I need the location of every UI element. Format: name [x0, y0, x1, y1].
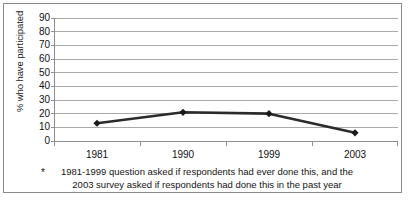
- data-series-line: [54, 18, 398, 141]
- x-tick-mark: [312, 141, 313, 146]
- x-tick-label: 1981: [86, 149, 108, 160]
- y-tick-label: 70: [39, 40, 50, 50]
- footnote-line-1: 1981-1999 question asked if respondents …: [22, 166, 392, 179]
- chart-screenshot: % who have participated 0102030405060708…: [0, 0, 409, 206]
- x-axis: 1981199019992003: [54, 141, 398, 167]
- clipped-caption-below-frame: [0, 196, 409, 206]
- series-line: [97, 112, 355, 133]
- y-tick-label: 40: [39, 81, 50, 91]
- y-tick-label: 10: [39, 122, 50, 132]
- y-tick-label: 80: [39, 27, 50, 37]
- footnote-line-2: 2003 survey asked if respondents had don…: [22, 179, 392, 192]
- x-tick-label: 2003: [344, 149, 366, 160]
- x-tick-mark: [140, 141, 141, 146]
- chart-frame: % who have participated 0102030405060708…: [3, 3, 402, 193]
- y-tick-label: 20: [39, 109, 50, 119]
- data-point-marker: [179, 109, 186, 116]
- x-tick-mark: [397, 141, 398, 146]
- x-tick-mark: [226, 141, 227, 146]
- y-axis-title: % who have participated: [14, 2, 25, 122]
- y-tick-label: 0: [44, 136, 50, 146]
- x-tick-mark: [54, 141, 55, 146]
- x-tick-label: 1999: [258, 149, 280, 160]
- data-point-marker: [265, 110, 272, 117]
- y-tick-label: 50: [39, 68, 50, 78]
- y-tick-label: 90: [39, 13, 50, 23]
- y-tick-label: 60: [39, 54, 50, 64]
- x-tick-label: 1990: [172, 149, 194, 160]
- footnote: 1981-1999 question asked if respondents …: [22, 166, 392, 191]
- plot-area: 0102030405060708090: [54, 18, 398, 141]
- y-tick-label: 30: [39, 95, 50, 105]
- data-point-marker: [93, 120, 100, 127]
- data-point-marker: [351, 129, 358, 136]
